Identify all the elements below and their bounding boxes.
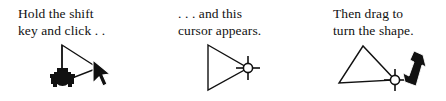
panel-2-graphic bbox=[160, 38, 300, 101]
rotation-anchor-marker bbox=[50, 68, 75, 87]
panel-1-caption: Hold the shift key and click . . bbox=[18, 5, 105, 39]
panel-3-caption-line-2: turn the shape. bbox=[333, 22, 414, 39]
panel-3-caption-line-1: Then drag to bbox=[333, 5, 414, 22]
instruction-panel-1: Hold the shift key and click . . bbox=[0, 0, 150, 101]
rotate-cursor bbox=[236, 56, 260, 80]
mouse-pointer-cursor bbox=[93, 60, 110, 86]
panel-2-caption: . . . and this cursor appears. bbox=[178, 5, 261, 39]
drag-arrow-down-right bbox=[403, 51, 426, 86]
triangle-shape-outline bbox=[339, 46, 395, 83]
rotate-shape-instruction-figure: Hold the shift key and click . . bbox=[0, 0, 446, 101]
panel-1-graphic bbox=[0, 38, 150, 101]
panel-2-caption-line-2: cursor appears. bbox=[178, 22, 261, 39]
instruction-panel-2: . . . and this cursor appears. bbox=[160, 0, 300, 101]
panel-3-caption: Then drag to turn the shape. bbox=[333, 5, 414, 39]
panel-3-graphic bbox=[315, 38, 446, 101]
instruction-panel-3: Then drag to turn the shape. bbox=[315, 0, 446, 101]
panel-2-caption-line-1: . . . and this bbox=[178, 5, 261, 22]
panel-1-caption-line-2: key and click . . bbox=[18, 22, 105, 39]
panel-1-caption-line-1: Hold the shift bbox=[18, 5, 105, 22]
